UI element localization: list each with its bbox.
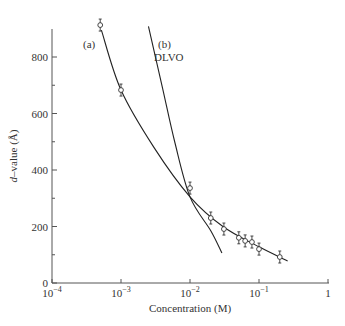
curve-b-dlvo-label: DLVO [154, 51, 184, 63]
y-tick-label: 200 [32, 221, 49, 233]
data-point-marker [222, 227, 227, 232]
data-point-marker [208, 216, 213, 221]
data-point-marker [188, 186, 193, 191]
data-point-marker [277, 255, 282, 260]
chart-canvas: 0200400600800 10−410−310−210−11 Concentr… [0, 0, 345, 326]
data-point-marker [119, 88, 124, 93]
data-point-marker [243, 239, 248, 244]
y-axis-label-rest: –value (Å) [7, 129, 20, 178]
x-ticks: 10−410−310−210−11 [42, 279, 331, 299]
curves [101, 26, 287, 260]
x-tick-label: 10−2 [180, 285, 200, 299]
y-axis-label: d–value (Å) [7, 129, 20, 182]
y-ticks: 0200400600800 [32, 51, 58, 289]
x-tick-label: 10−3 [111, 285, 131, 299]
data-points [98, 19, 282, 263]
curve-b-label: (b) [158, 38, 171, 51]
data-point-marker [98, 23, 103, 28]
y-tick-label: 600 [32, 108, 49, 120]
axes: 0200400600800 10−410−310−210−11 [32, 29, 331, 299]
curve-a-label: (a) [83, 38, 96, 51]
data-point-marker [250, 240, 255, 245]
x-axis-label: Concentration (M) [149, 302, 232, 315]
x-tick-label: 10−1 [249, 285, 269, 299]
data-point-marker [236, 235, 241, 240]
y-tick-label: 400 [32, 164, 49, 176]
data-point-marker [257, 247, 262, 252]
y-tick-label: 800 [32, 51, 49, 63]
x-tick-label: 10−4 [42, 285, 62, 299]
x-tick-label: 1 [325, 287, 331, 299]
curve-a [101, 30, 287, 261]
